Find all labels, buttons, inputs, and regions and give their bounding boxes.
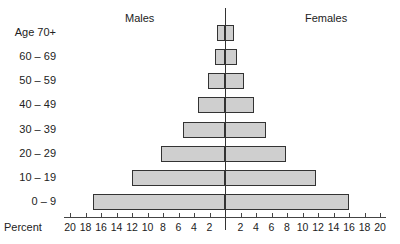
male-bar bbox=[208, 73, 225, 89]
x-axis-line bbox=[64, 217, 386, 218]
x-tick bbox=[179, 213, 180, 218]
age-labels: Age 70+ 60 – 69 50 – 59 40 – 49 30 – 39 … bbox=[0, 0, 56, 244]
x-tick bbox=[365, 213, 366, 218]
female-bar bbox=[225, 49, 237, 65]
age-label: 30 – 39 bbox=[0, 123, 56, 135]
x-tick bbox=[256, 213, 257, 218]
male-bar bbox=[215, 49, 225, 65]
x-tick bbox=[210, 213, 211, 218]
x-tick bbox=[86, 213, 87, 218]
males-header: Males bbox=[125, 12, 154, 24]
x-tick bbox=[132, 213, 133, 218]
male-bar bbox=[93, 194, 225, 210]
females-header: Females bbox=[305, 12, 347, 24]
x-tick bbox=[287, 213, 288, 218]
female-bar bbox=[225, 194, 349, 210]
x-tick bbox=[117, 213, 118, 218]
x-tick bbox=[303, 213, 304, 218]
age-label: 20 – 29 bbox=[0, 147, 56, 159]
male-bar bbox=[132, 170, 225, 186]
x-tick bbox=[318, 213, 319, 218]
age-label: 10 – 19 bbox=[0, 171, 56, 183]
age-label: 40 – 49 bbox=[0, 98, 56, 110]
x-tick bbox=[163, 213, 164, 218]
x-tick bbox=[272, 213, 273, 218]
x-tick-label: 2 bbox=[200, 221, 220, 233]
female-bar bbox=[225, 146, 286, 162]
age-label: Age 70+ bbox=[0, 26, 56, 38]
x-tick bbox=[349, 213, 350, 218]
x-tick bbox=[380, 213, 381, 218]
female-bar bbox=[225, 170, 316, 186]
x-tick bbox=[334, 213, 335, 218]
age-label: 0 – 9 bbox=[0, 195, 56, 207]
x-tick bbox=[194, 213, 195, 218]
x-axis-label: Percent bbox=[4, 221, 42, 233]
male-bar bbox=[161, 146, 225, 162]
age-label: 60 – 69 bbox=[0, 50, 56, 62]
male-bar bbox=[198, 97, 225, 113]
x-tick bbox=[148, 213, 149, 218]
female-bar bbox=[225, 122, 266, 138]
female-bar bbox=[225, 25, 234, 41]
x-tick bbox=[70, 213, 71, 218]
x-tick-label: 20 bbox=[370, 221, 390, 233]
age-label: 50 – 59 bbox=[0, 74, 56, 86]
x-tick bbox=[101, 213, 102, 218]
center-axis-line bbox=[225, 8, 226, 230]
male-bar bbox=[183, 122, 225, 138]
x-tick bbox=[241, 213, 242, 218]
female-bar bbox=[225, 97, 254, 113]
male-bar bbox=[217, 25, 225, 41]
female-bar bbox=[225, 73, 244, 89]
